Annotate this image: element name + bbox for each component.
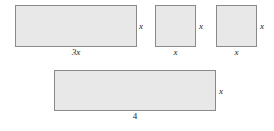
square-x-by-x-first-width-label: x [155,48,196,57]
rectangle-3x-by-x-width-label: 3x [15,48,137,57]
rectangle-3x-by-x-height-label: x [139,22,143,31]
rectangle-3x-by-x [15,5,137,47]
square-x-by-x-second-height-label: x [260,22,264,31]
algebra-tiles-figure: x 3x x x x x x 4 [0,0,274,131]
rectangle-4-by-x [54,70,216,111]
rectangle-4-by-x-height-label: x [219,87,223,96]
rectangle-4-by-x-width-label: 4 [54,112,216,121]
square-x-by-x-first [155,5,196,47]
square-x-by-x-second-width-label: x [216,48,257,57]
square-x-by-x-first-height-label: x [199,22,203,31]
square-x-by-x-second [216,5,257,47]
